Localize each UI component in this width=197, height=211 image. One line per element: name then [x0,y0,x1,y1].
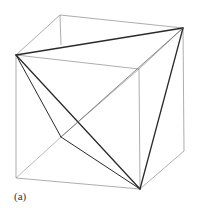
edge-back-left-vertical [60,15,61,45]
cube-tetrahedron-diagram [0,0,197,211]
tetra-edge-right [140,28,183,189]
edge-front-bottom [16,178,140,189]
tetra-edge-hidden-to-bottom [61,137,140,189]
edge-front-top [16,55,139,69]
edge-front-right-vertical [139,69,140,189]
hidden-edges [16,69,139,178]
edge-bottom-left-hidden [16,137,61,178]
edge-back-top [60,15,183,28]
tetrahedron-edges [16,28,183,189]
edge-back-right-vertical [183,28,184,151]
edge-bottom-right [140,151,184,189]
figure-caption: (a) [14,190,26,202]
